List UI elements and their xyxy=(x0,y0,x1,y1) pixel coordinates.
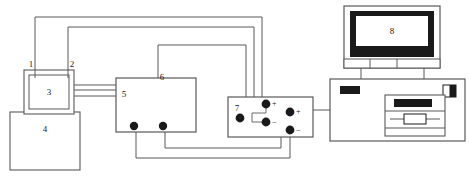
tower-badge xyxy=(340,86,360,94)
power-panel-label: 7 xyxy=(235,103,240,113)
reaction-cell-label: 3 xyxy=(47,87,52,97)
module-terminal-left[interactable] xyxy=(130,122,138,130)
port-2-label: 2 xyxy=(70,59,75,69)
power-terminal-pos-1-sign: + xyxy=(272,99,277,108)
power-terminal-neg-1[interactable] xyxy=(262,118,271,127)
power-terminal-neg-1-sign: − xyxy=(272,118,277,127)
tubing-bundle xyxy=(74,85,116,96)
drive-eject-slot[interactable] xyxy=(404,114,426,124)
base-vessel-label: 4 xyxy=(43,124,48,134)
port-1-label: 1 xyxy=(29,59,34,69)
base-vessel-body xyxy=(10,112,80,170)
instrument-module-body xyxy=(116,78,196,132)
diagram-canvas: 4 3 1 2 5 6 7 + xyxy=(0,0,469,185)
tube-port-label: 5 xyxy=(122,89,127,99)
monitor-base-strip xyxy=(344,59,440,68)
power-terminal-plain[interactable] xyxy=(236,114,245,123)
power-terminal-pos-1[interactable] xyxy=(262,100,271,109)
tower-power-indicator-fill xyxy=(450,85,457,97)
module-terminal-right[interactable] xyxy=(159,122,167,130)
monitor-screen-label: 8 xyxy=(390,26,395,36)
power-terminal-pos-2-sign: + xyxy=(296,107,301,116)
power-terminal-pos-2[interactable] xyxy=(286,108,295,117)
power-terminal-neg-2-sign: − xyxy=(296,126,301,135)
schematic-diagram: 4 3 1 2 5 6 7 + xyxy=(0,0,469,185)
power-terminal-neg-2[interactable] xyxy=(286,126,295,135)
monitor-control-indicator[interactable] xyxy=(415,48,432,56)
drive-slot-upper[interactable] xyxy=(394,99,432,107)
instrument-module-label: 6 xyxy=(160,72,165,82)
